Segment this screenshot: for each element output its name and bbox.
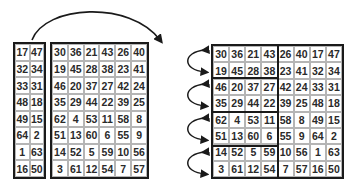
swap-arrow-icon-2 — [188, 84, 205, 106]
swap-arrow-icon-1 — [188, 50, 205, 72]
arrows-layer — [0, 0, 353, 187]
top-arc-arrow-icon — [32, 12, 160, 40]
swap-arrow-icon-4 — [188, 152, 205, 174]
swap-arrow-icon-3 — [188, 118, 205, 140]
